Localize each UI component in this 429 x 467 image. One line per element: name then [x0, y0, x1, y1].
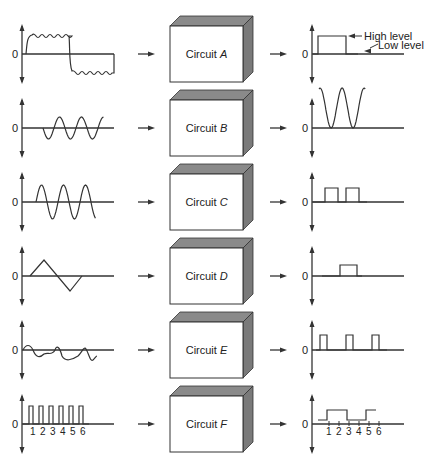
arrowhead-icon	[20, 151, 25, 158]
arrowhead-icon	[348, 34, 355, 39]
input-signal-graph: 0	[12, 246, 114, 306]
arrowhead-icon	[280, 126, 287, 131]
output-waveform	[322, 265, 362, 276]
zero-label: 0	[302, 344, 308, 356]
circuit-label: Circuit B	[186, 122, 228, 134]
tick-label: 2	[336, 426, 342, 437]
arrowhead-icon	[148, 274, 155, 279]
arrowhead-icon	[310, 172, 315, 179]
arrowhead-icon	[148, 126, 155, 131]
row-b: 0Circuit B0	[12, 88, 404, 158]
signal-processing-diagram: 0Circuit A0High levelLow level0Circuit B…	[0, 0, 429, 467]
arrowhead-icon	[148, 200, 155, 205]
output-signal-graph: 0	[302, 246, 404, 306]
circuit-label: Circuit F	[186, 418, 228, 430]
arrowhead-icon	[20, 447, 25, 454]
output-waveform	[318, 410, 376, 420]
tick-label: 1	[326, 426, 332, 437]
row-d: 0Circuit D0	[12, 238, 404, 306]
box-side-face	[243, 386, 253, 452]
input-waveform	[23, 406, 89, 424]
input-signal-graph: 0	[12, 320, 114, 380]
input-signal-graph: 0	[12, 98, 114, 158]
axes: 0	[12, 172, 114, 232]
row-c: 0Circuit C0	[12, 164, 404, 232]
zero-label: 0	[302, 48, 308, 60]
arrowhead-icon	[280, 422, 287, 427]
zero-label: 0	[12, 270, 18, 282]
axes: 0	[302, 394, 404, 454]
box-side-face	[243, 238, 253, 304]
row-f: 0123456Circuit F0123456	[12, 386, 404, 454]
box-side-face	[243, 312, 253, 378]
axes: 0	[12, 246, 114, 306]
box-top-face	[170, 238, 253, 248]
axes: 0	[302, 246, 404, 306]
box-side-face	[243, 164, 253, 230]
output-signal-graph: 0123456	[302, 394, 404, 454]
circuit-box: Circuit F	[170, 386, 253, 452]
zero-label: 0	[12, 48, 18, 60]
zero-label: 0	[12, 344, 18, 356]
output-waveform	[313, 36, 358, 54]
arrowhead-icon	[280, 274, 287, 279]
box-top-face	[170, 312, 253, 322]
row-a: 0Circuit A0High levelLow level	[12, 16, 424, 84]
arrowhead-icon	[20, 98, 25, 105]
arrowhead-icon	[280, 348, 287, 353]
zero-label: 0	[302, 270, 308, 282]
level-annotations: High levelLow level	[348, 30, 424, 54]
arrowhead-icon	[20, 394, 25, 401]
axes: 0	[12, 320, 114, 380]
arrowhead-icon	[310, 225, 315, 232]
row-e: 0Circuit E0	[12, 312, 404, 380]
box-top-face	[170, 386, 253, 396]
box-side-face	[243, 90, 253, 156]
zero-label: 0	[302, 122, 308, 134]
zero-label: 0	[302, 418, 308, 430]
tick-label: 6	[376, 426, 382, 437]
arrowhead-icon	[280, 200, 287, 205]
tick-label: 5	[366, 426, 372, 437]
arrowhead-icon	[20, 225, 25, 232]
arrowhead-icon	[20, 320, 25, 327]
output-signal-graph: 0	[302, 88, 404, 158]
box-side-face	[243, 16, 253, 82]
circuit-label: Circuit C	[185, 196, 227, 208]
output-waveform	[313, 188, 367, 202]
output-signal-graph: 0High levelLow level	[302, 24, 424, 84]
output-signal-graph: 0	[302, 172, 404, 232]
output-waveform	[316, 335, 387, 350]
arrowhead-icon	[20, 24, 25, 31]
circuit-box: Circuit D	[170, 238, 253, 304]
circuit-label: Circuit D	[185, 270, 227, 282]
arrowhead-icon	[310, 447, 315, 454]
box-top-face	[170, 164, 253, 174]
axes: 0	[12, 98, 114, 158]
arrowhead-icon	[148, 422, 155, 427]
tick-label: 5	[70, 426, 76, 437]
arrowhead-icon	[280, 52, 287, 57]
arrowhead-icon	[20, 246, 25, 253]
arrowhead-icon	[20, 299, 25, 306]
circuit-box: Circuit E	[170, 312, 253, 378]
box-top-face	[170, 90, 253, 100]
tick-label: 3	[50, 426, 56, 437]
output-waveform	[319, 88, 365, 128]
arrowhead-icon	[20, 373, 25, 380]
circuit-label: Circuit E	[186, 344, 228, 356]
tick-label: 4	[356, 426, 362, 437]
tick-label: 2	[40, 426, 46, 437]
output-signal-graph: 0	[302, 320, 404, 380]
arrowhead-icon	[148, 348, 155, 353]
circuit-box: Circuit A	[170, 16, 253, 82]
arrowhead-icon	[310, 77, 315, 84]
arrowhead-icon	[148, 52, 155, 57]
zero-label: 0	[12, 196, 18, 208]
input-waveform	[23, 346, 97, 361]
zero-label: 0	[302, 196, 308, 208]
zero-label: 0	[12, 122, 18, 134]
arrowhead-icon	[310, 299, 315, 306]
arrowhead-icon	[310, 98, 315, 105]
axes: 0	[12, 24, 114, 84]
